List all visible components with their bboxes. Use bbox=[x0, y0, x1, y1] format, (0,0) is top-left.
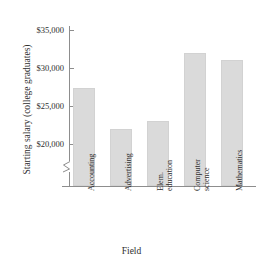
cat-line: science bbox=[203, 131, 212, 191]
y-tick-mark bbox=[69, 68, 74, 69]
x-tick-label-mathematics: Mathematics bbox=[236, 131, 250, 191]
cat-line: Accounting bbox=[87, 154, 96, 191]
cat-line: education bbox=[166, 131, 175, 191]
y-tick-label-wrap: $20,000 bbox=[16, 140, 64, 149]
y-axis-line bbox=[69, 26, 70, 161]
y-tick-mark bbox=[69, 30, 74, 31]
y-tick-label: $25,000 bbox=[18, 102, 64, 111]
y-tick-label: $35,000 bbox=[18, 26, 64, 35]
y-axis-line-lower bbox=[69, 172, 70, 187]
y-tick-label-wrap: $25,000 bbox=[16, 102, 64, 111]
x-axis-title: Field bbox=[0, 246, 263, 256]
top-cut-text bbox=[22, 0, 102, 8]
cat-line: Mathematics bbox=[235, 150, 244, 191]
y-tick-label: $30,000 bbox=[18, 64, 64, 73]
x-tick-label-advertising: Advertising bbox=[125, 131, 139, 191]
y-tick-label-wrap: $35,000 bbox=[16, 26, 64, 35]
x-tick-label-accounting: Accounting bbox=[88, 131, 102, 191]
y-tick-label-wrap: $30,000 bbox=[16, 64, 64, 73]
x-tick-label-elem-education: Elem. education bbox=[157, 131, 171, 191]
bar-chart-figure: Starting salary (college graduates) $35,… bbox=[0, 0, 263, 265]
y-tick-label: $20,000 bbox=[18, 140, 64, 149]
cat-line: Advertising bbox=[124, 153, 133, 191]
x-tick-label-computer-science: Computer science bbox=[194, 131, 208, 191]
